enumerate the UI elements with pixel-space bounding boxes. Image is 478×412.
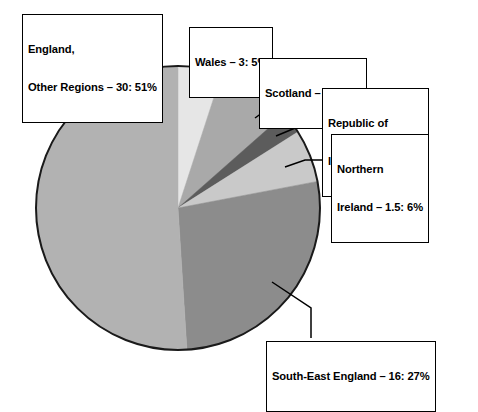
label-northern-ireland: Northern Ireland – 1.5: 6% — [331, 134, 429, 243]
label-england-line1: England, — [28, 43, 157, 56]
label-england-other-regions: England, Other Regions – 30: 51% — [22, 14, 163, 123]
label-ni-line2: Ireland – 1.5: 6% — [337, 201, 423, 214]
label-england-line2: Other Regions – 30: 51% — [28, 81, 157, 94]
label-roi-line1: Republic of — [328, 117, 423, 130]
label-see-line1: South-East England – 16: 27% — [272, 370, 430, 383]
pie-slice-south-east-england — [178, 181, 320, 349]
label-wales-line1: Wales – 3: 5% — [195, 56, 267, 69]
label-south-east-england: South-East England – 16: 27% — [266, 341, 436, 412]
label-ni-line1: Northern — [337, 163, 423, 176]
